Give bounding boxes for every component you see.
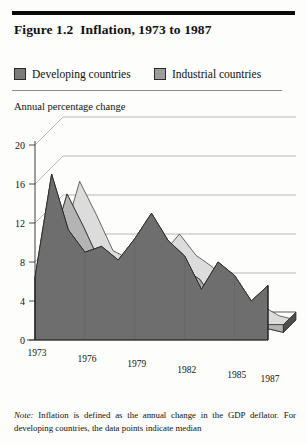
legend-swatch-industrial-icon [154, 68, 166, 80]
legend-swatch-developing-icon [14, 68, 26, 80]
legend-label-industrial: Industrial countries [172, 68, 261, 80]
y-tick-label: 12 [15, 218, 25, 229]
figure-title-text: Inflation, 1973 to 1987 [80, 22, 211, 37]
y-tick-label: 8 [20, 257, 25, 268]
inflation-area-chart: 048121620197319761979198219851987 [0, 112, 307, 387]
figure-page: Figure 1.2Inflation, 1973 to 1987 Develo… [0, 0, 307, 443]
x-axis-tick-labels: 197319761979198219851987 [28, 348, 280, 384]
legend-item-developing: Developing countries [14, 68, 131, 80]
note-label: Note: [14, 410, 34, 420]
x-tick-label: 1987 [261, 374, 280, 384]
y-tick-label: 16 [15, 179, 25, 190]
x-tick-label: 1985 [227, 370, 246, 380]
note-text: Inflation is defined as the annual chang… [14, 410, 296, 433]
legend: Developing countries Industrial countrie… [14, 68, 294, 84]
page-title: Figure 1.2Inflation, 1973 to 1987 [14, 22, 212, 38]
legend-divider [12, 90, 282, 91]
y-axis-caption: Annual percentage change [14, 101, 125, 112]
y-axis-tick-labels: 048121620 [15, 140, 25, 346]
x-tick-label: 1973 [28, 348, 47, 358]
legend-item-industrial: Industrial countries [154, 68, 261, 80]
chart-area: 048121620197319761979198219851987 [0, 112, 307, 387]
y-tick-label: 4 [20, 296, 25, 307]
y-tick-label: 20 [15, 140, 25, 151]
figure-number: Figure 1.2 [14, 22, 73, 37]
figure-note: Note: Inflation is defined as the annual… [14, 409, 296, 435]
x-tick-label: 1979 [127, 359, 146, 369]
legend-label-developing: Developing countries [32, 68, 131, 80]
x-tick-label: 1982 [177, 365, 196, 375]
top-rule [12, 11, 295, 15]
x-tick-label: 1976 [77, 354, 96, 364]
y-tick-label: 0 [20, 335, 25, 346]
